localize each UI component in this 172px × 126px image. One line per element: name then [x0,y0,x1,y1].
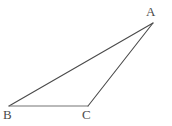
triangle-figure: A B C [0,0,172,126]
vertex-label-c: C [82,108,91,121]
edge-AC [88,23,153,106]
vertex-label-a: A [146,5,155,18]
vertex-label-b: B [3,108,12,121]
edge-BA [9,23,153,106]
triangle-edges [9,23,153,106]
